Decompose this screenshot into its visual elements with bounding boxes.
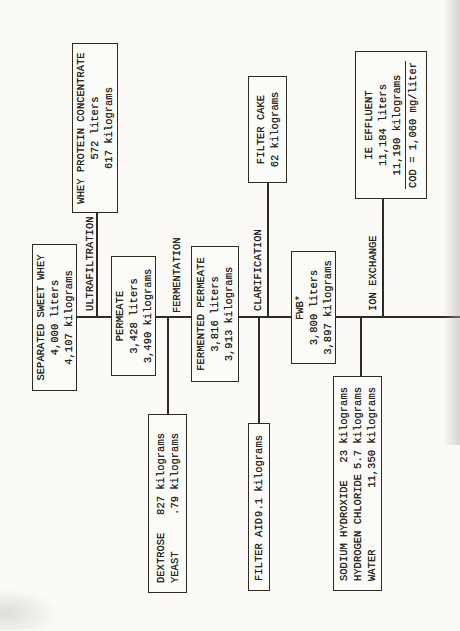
hydrogen-chloride-name: HYDROGEN CHLORIDE [351,474,365,581]
branch-line-filter-aid [258,316,260,423]
ie-effluent-cod: COD = 1,060 mg/liter [406,52,420,198]
box-fermented-permeate: FERMENTED PERMEATE 3,816 liters 3,913 ki… [191,246,239,382]
sodium-hydroxide-name: SODIUM HYDROXIDE [337,480,351,581]
whey-protein-concentrate-title: WHEY PROTEIN CONCENTRATE [74,44,88,212]
process-label-ultrafiltration: ULTRAFILTRATION [85,216,96,311]
fwb-title: FWB* [293,252,307,363]
box-ie-effluent: IE EFFLUENT 11,184 liters 11,190 kilogra… [355,51,427,199]
box-filter-cake: FILTER CAKE 62 kilograms [248,76,287,183]
fwb-liters: 3,800 liters [307,252,321,363]
yeast-amount: .79 kilograms [168,433,182,515]
process-flow-diagram: ULTRAFILTRATION FERMENTATION CLARIFICATI… [0,0,460,631]
dextrose-name: DEXTROSE [154,533,168,583]
branch-line-ie-effluent [382,199,384,318]
filter-aid-amount: 9.1 kilograms [252,435,266,517]
branch-line-filter-cake [267,183,269,318]
sodium-hydroxide-amount: 23 kilograms [337,387,351,463]
box-dextrose-yeast: DEXTROSE 827 kilograms YEAST .79 kilogra… [148,414,187,593]
box-separated-sweet-whey: SEPARATED SWEET WHEY 4,000 liters 4,107 … [32,244,77,391]
filter-cake-title: FILTER CAKE [254,77,268,182]
water-row: WATER 11,350 kilograms [365,387,379,581]
ie-effluent-kilograms: 11,190 kilograms [390,61,406,189]
process-label-ion-exchange: ION EXCHANGE [368,235,379,311]
permeate-kilograms: 3,490 kilograms [141,257,155,375]
filter-aid-name: FILTER AID [252,518,266,581]
permeate-liters: 3,428 liters [127,257,141,375]
box-filter-aid: FILTER AID 9.1 kilograms [248,423,270,591]
branch-line-whey-protein-concentrate [96,213,98,318]
main-flow-line-segment-1 [77,316,111,318]
branch-line-dextrose-yeast [167,316,169,414]
water-amount: 11,350 kilograms [365,387,379,488]
scanned-page: ULTRAFILTRATION FERMENTATION CLARIFICATI… [0,0,460,631]
ie-effluent-title: IE EFFLUENT [362,52,376,198]
whey-protein-concentrate-kilograms: 617 kilograms [102,44,116,212]
sodium-hydroxide-row: SODIUM HYDROXIDE 23 kilograms [337,387,351,581]
process-label-clarification: CLARIFICATION [253,229,264,311]
dextrose-row: DEXTROSE 827 kilograms [154,433,168,583]
dextrose-amount: 827 kilograms [154,433,168,515]
water-name: WATER [365,549,379,581]
hydrogen-chloride-row: HYDROGEN CHLORIDE 5.7 kilograms [351,387,365,581]
main-flow-line-segment-2 [156,316,191,318]
box-ion-exchange-inputs: SODIUM HYDROXIDE 23 kilograms HYDROGEN C… [333,376,382,591]
separated-sweet-whey-liters: 4,000 liters [48,245,62,390]
main-flow-line-segment-3 [239,316,291,318]
separated-sweet-whey-title: SEPARATED SWEET WHEY [34,245,48,390]
box-fwb: FWB* 3,800 liters 3,897 kilograms [291,251,336,364]
box-whey-protein-concentrate: WHEY PROTEIN CONCENTRATE 572 liters 617 … [72,43,118,213]
yeast-name: YEAST [168,551,182,583]
branch-line-ion-exchange-inputs [360,316,362,376]
permeate-title: PERMEATE [113,257,127,375]
ie-effluent-liters: 11,184 liters [376,52,390,198]
process-label-fermentation: FERMENTATION [172,237,183,313]
box-permeate: PERMEATE 3,428 liters 3,490 kilograms [111,256,156,376]
fermented-permeate-kilograms: 3,913 kilograms [222,247,236,381]
filter-cake-kilograms: 62 kilograms [268,77,282,182]
main-flow-line-segment-4 [336,316,460,318]
separated-sweet-whey-kilograms: 4,107 kilograms [62,245,76,390]
whey-protein-concentrate-liters: 572 liters [88,44,102,212]
yeast-row: YEAST .79 kilograms [168,433,182,583]
filter-aid-row: FILTER AID 9.1 kilograms [252,435,266,581]
hydrogen-chloride-amount: 5.7 kilograms [351,387,365,469]
fermented-permeate-liters: 3,816 liters [208,247,222,381]
fermented-permeate-title: FERMENTED PERMEATE [194,247,208,381]
fwb-kilograms: 3,897 kilograms [321,252,335,363]
